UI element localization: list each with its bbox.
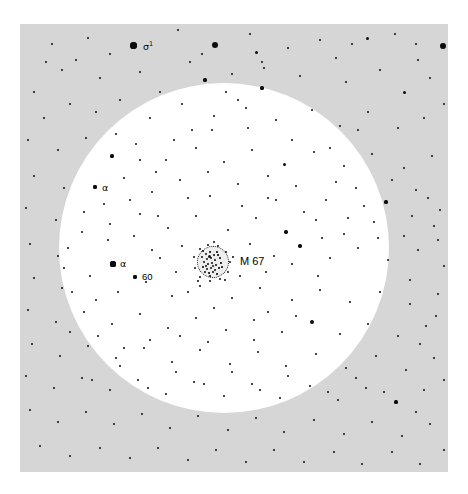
star-point: [173, 139, 175, 141]
star-point: [149, 339, 151, 341]
sky-field-panel: σ1αα60 M 67: [20, 24, 448, 472]
star-point: [419, 343, 421, 345]
star-point: [129, 199, 131, 201]
star-point: [433, 357, 435, 359]
star-point: [43, 117, 46, 120]
star-point: [53, 387, 56, 390]
star-point: [371, 421, 373, 423]
star-point: [155, 171, 157, 173]
star-point: [351, 43, 353, 45]
cluster-member-star: [219, 257, 221, 259]
star-point: [303, 211, 305, 213]
star-point: [203, 78, 206, 81]
star-point: [265, 271, 267, 273]
star-label-superscript: 1: [149, 40, 153, 48]
star-point: [327, 391, 329, 393]
star-point: [394, 33, 396, 35]
star-point: [383, 391, 385, 393]
cluster-member-star: [214, 259, 216, 261]
star-point: [337, 399, 339, 401]
star-point: [397, 335, 400, 338]
star-point: [433, 225, 435, 227]
star-point: [211, 129, 213, 131]
star-point: [291, 139, 293, 141]
cluster-halo-star: [213, 241, 215, 243]
star-point: [275, 199, 277, 201]
cluster-label-m67: M 67: [240, 256, 264, 267]
cluster-m67[interactable]: [197, 246, 229, 278]
star-point: [425, 325, 427, 327]
star-point: [431, 155, 433, 157]
star-point: [249, 33, 251, 35]
star-point: [394, 400, 397, 403]
star-point: [169, 427, 171, 429]
star-point: [213, 307, 215, 309]
star-point: [197, 415, 199, 417]
star-point: [409, 303, 412, 306]
star-point: [403, 91, 406, 94]
star-point: [179, 335, 181, 337]
star-point: [239, 275, 241, 277]
star-point: [419, 463, 422, 466]
star-point: [191, 129, 193, 131]
star-point: [443, 265, 446, 268]
cluster-halo-star: [197, 280, 199, 282]
star-point: [189, 61, 191, 63]
star-point: [69, 331, 71, 333]
star-point: [427, 197, 429, 199]
star-point: [437, 239, 439, 241]
star-point: [365, 387, 367, 389]
star-point: [69, 455, 72, 458]
cluster-member-star: [210, 267, 212, 269]
sigma-1-star[interactable]: [130, 42, 137, 49]
cluster-member-star: [216, 273, 218, 275]
star-point: [437, 293, 439, 295]
star-point: [405, 369, 408, 372]
cluster-member-star: [205, 265, 207, 267]
star-point: [29, 243, 31, 245]
cluster-halo-star: [224, 279, 226, 281]
star-point: [175, 371, 177, 373]
star-point: [123, 347, 125, 349]
cluster-member-star: [218, 267, 220, 269]
star-point: [313, 419, 316, 422]
star-point: [440, 43, 446, 49]
star-point: [283, 163, 286, 166]
star-point: [187, 459, 189, 461]
star-point: [439, 209, 442, 212]
alpha-lower-star[interactable]: [110, 261, 115, 266]
star-point: [443, 449, 445, 451]
star-point: [343, 433, 345, 435]
star-point: [115, 133, 117, 135]
star-point: [203, 383, 205, 385]
cluster-member-star: [221, 266, 223, 268]
star-point: [57, 149, 60, 152]
star-point: [157, 447, 159, 449]
star-point: [133, 235, 135, 237]
star-point: [129, 457, 131, 459]
star-point: [423, 389, 425, 391]
cluster-member-star: [202, 266, 204, 268]
star-point: [403, 167, 406, 170]
star-point: [33, 91, 35, 93]
star-point: [141, 413, 143, 415]
star-point: [207, 171, 209, 173]
star-point: [87, 37, 89, 39]
star-point: [295, 315, 297, 317]
star-point: [29, 409, 31, 411]
star-point: [237, 99, 239, 101]
star-point: [345, 367, 347, 369]
star-point: [291, 263, 293, 265]
star-chart: σ1αα60 M 67: [0, 0, 468, 494]
star-point: [321, 237, 323, 239]
star-point: [39, 445, 41, 447]
cluster-member-star: [215, 264, 217, 266]
star-point: [25, 375, 27, 377]
star-point: [97, 335, 99, 337]
star-point: [415, 189, 417, 191]
cluster-halo-star: [193, 256, 195, 258]
star-point: [57, 421, 60, 424]
star-point: [255, 417, 257, 419]
cluster-member-star: [217, 254, 219, 256]
star-point: [99, 77, 101, 79]
